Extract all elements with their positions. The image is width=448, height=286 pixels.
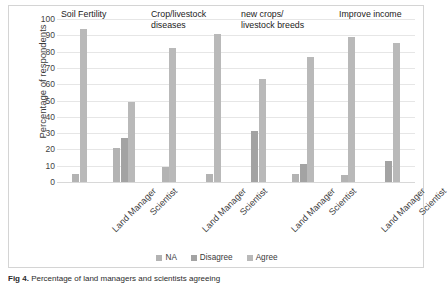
legend-swatch-icon <box>247 255 253 261</box>
y-axis-tick-label: 20 <box>27 145 55 154</box>
y-axis-tick-label: 90 <box>27 31 55 40</box>
bar-disagree <box>121 138 128 182</box>
bar-agree <box>259 79 266 182</box>
x-axis-tick-labels: Land ManagerScientistLand ManagerScienti… <box>57 186 415 248</box>
legend-item[interactable]: Agree <box>247 253 278 262</box>
plot-area <box>57 19 415 182</box>
y-axis-tick-label: 50 <box>27 96 55 105</box>
bar-agree <box>348 37 355 182</box>
legend-swatch-icon <box>191 255 197 261</box>
legend-item[interactable]: Disagree <box>191 253 233 262</box>
gridline <box>57 182 415 183</box>
caption-text: Percentage of land managers and scientis… <box>31 274 220 283</box>
y-axis-tick-label: 80 <box>27 47 55 56</box>
bar-na <box>72 174 79 182</box>
bar-na <box>162 167 169 182</box>
y-axis-tick-label: 40 <box>27 113 55 122</box>
y-axis-tick-label: 60 <box>27 80 55 89</box>
chart-frame: Percentage of respondents 10090807060504… <box>8 5 424 268</box>
y-axis-tick-label: 0 <box>27 178 55 187</box>
y-axis-tick-label: 30 <box>27 129 55 138</box>
figure-caption: Fig 4. Percentage of land managers and s… <box>8 274 428 283</box>
legend-item[interactable]: NA <box>156 253 176 262</box>
bar-agree <box>80 29 87 182</box>
caption-label: Fig 4. <box>8 274 29 283</box>
y-axis-tick-labels: 1009080706050403020100 <box>27 19 55 182</box>
bar-series-container <box>57 19 415 182</box>
bar-disagree <box>385 161 392 182</box>
bar-na <box>292 174 299 182</box>
bar-agree <box>169 48 176 182</box>
bar-na <box>341 175 348 182</box>
group-title: new crops/ livestock breeds <box>241 9 304 31</box>
bar-na <box>113 148 120 182</box>
group-title: Soil Fertility <box>61 9 106 20</box>
legend-label: NA <box>165 253 176 262</box>
bar-disagree <box>251 131 258 182</box>
bar-agree <box>393 43 400 182</box>
legend-label: Disagree <box>200 253 233 262</box>
group-title: Crop/livestock diseases <box>151 9 206 31</box>
group-title: Improve income <box>339 9 402 20</box>
bar-agree <box>214 34 221 182</box>
bar-na <box>206 174 213 182</box>
bar-disagree <box>300 164 307 182</box>
legend-swatch-icon <box>156 255 162 261</box>
y-axis-tick-label: 100 <box>27 15 55 24</box>
legend-label: Agree <box>256 253 278 262</box>
bar-agree <box>128 102 135 182</box>
chart-legend: NADisagreeAgree <box>9 253 425 262</box>
y-axis-tick-label: 70 <box>27 64 55 73</box>
y-axis-tick-label: 10 <box>27 161 55 170</box>
bar-agree <box>307 57 314 183</box>
